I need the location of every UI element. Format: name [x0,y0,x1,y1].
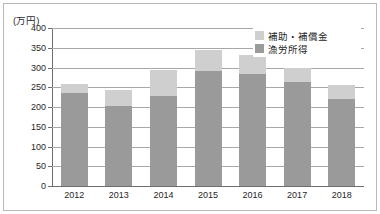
y-tick-label-50: 50 [12,161,46,171]
legend-label-0: 補助・補償金 [268,29,328,43]
bar-group-2014[interactable] [150,28,177,186]
bar-group-2015[interactable] [195,28,222,186]
chart-legend: 補助・補償金漁労所得 [253,27,361,57]
bar-segment-2014-subsidy[interactable] [150,70,177,96]
legend-label-1: 漁労所得 [268,42,308,56]
bar-segment-2012-income[interactable] [61,93,88,186]
bar-segment-2012-subsidy[interactable] [61,84,88,93]
bar-segment-2015-subsidy[interactable] [195,50,222,71]
bar-group-2012[interactable] [61,28,88,186]
legend-swatch-subsidy [255,31,264,40]
x-tick-label-2016: 2016 [230,190,275,200]
bar-segment-2016-income[interactable] [239,74,266,186]
x-tick-label-2015: 2015 [186,190,231,200]
x-tick-label-2018: 2018 [319,190,364,200]
y-tick-label-350: 350 [12,43,46,53]
y-tick-label-400: 400 [12,23,46,33]
bar-segment-2017-income[interactable] [284,82,311,186]
bar-segment-2015-income[interactable] [195,71,222,186]
gridline-0 [52,186,364,187]
y-tick-label-250: 250 [12,82,46,92]
x-tick-label-2014: 2014 [141,190,186,200]
x-tick-label-2017: 2017 [275,190,320,200]
bar-segment-2013-income[interactable] [105,106,132,186]
bar-segment-2018-income[interactable] [328,99,355,186]
bar-segment-2014-income[interactable] [150,96,177,186]
bar-segment-2013-subsidy[interactable] [105,90,132,106]
legend-swatch-income [255,44,264,53]
bar-group-2013[interactable] [105,28,132,186]
x-tick-label-2013: 2013 [97,190,142,200]
y-tick-label-0: 0 [12,181,46,191]
bar-segment-2017-subsidy[interactable] [284,68,311,83]
y-tick-label-100: 100 [12,142,46,152]
bar-segment-2018-subsidy[interactable] [328,85,355,99]
chart-figure: (万円) 050100150200250300350400 2012201320… [0,0,380,214]
bar-segment-2016-subsidy[interactable] [239,55,266,74]
y-tick-label-300: 300 [12,63,46,73]
legend-item-0[interactable]: 補助・補償金 [255,29,359,42]
y-tick-label-200: 200 [12,102,46,112]
x-tick-label-2012: 2012 [52,190,97,200]
y-tick-label-150: 150 [12,122,46,132]
legend-item-1[interactable]: 漁労所得 [255,42,359,55]
